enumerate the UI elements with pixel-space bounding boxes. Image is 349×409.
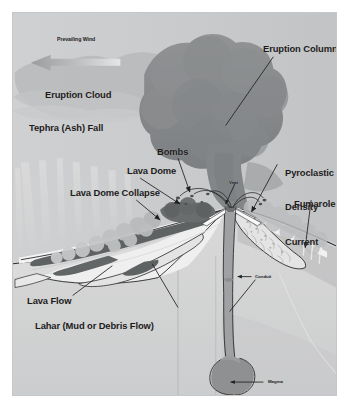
label-tephra-ash-fall: Tephra (Ash) Fall [29,123,103,134]
label-lava-dome-collapse: Lava Dome Collapse [70,188,160,199]
label-bombs: Bombs [157,147,188,158]
label-magma: Magma [268,380,283,385]
label-conduit: Conduit [255,275,271,280]
volcano-diagram-figure: Prevailing Wind Eruption Cloud Tephra (A… [0,0,349,409]
label-lava-dome: Lava Dome [127,166,176,177]
label-fumaroles: Fumaroles [294,199,337,210]
label-lahar: Lahar (Mud or Debris Flow) [35,321,154,332]
label-pdc-line-3: Current [285,236,334,247]
diagram-canvas: Prevailing Wind Eruption Cloud Tephra (A… [12,12,337,396]
label-pdc-line-1: Pyroclastic [285,167,334,178]
label-lava-flow: Lava Flow [27,296,71,307]
label-prevailing-wind: Prevailing Wind [57,37,95,43]
label-eruption-column: Eruption Column [263,44,337,55]
label-vent: Vent [229,181,238,186]
label-eruption-cloud: Eruption Cloud [45,90,111,101]
